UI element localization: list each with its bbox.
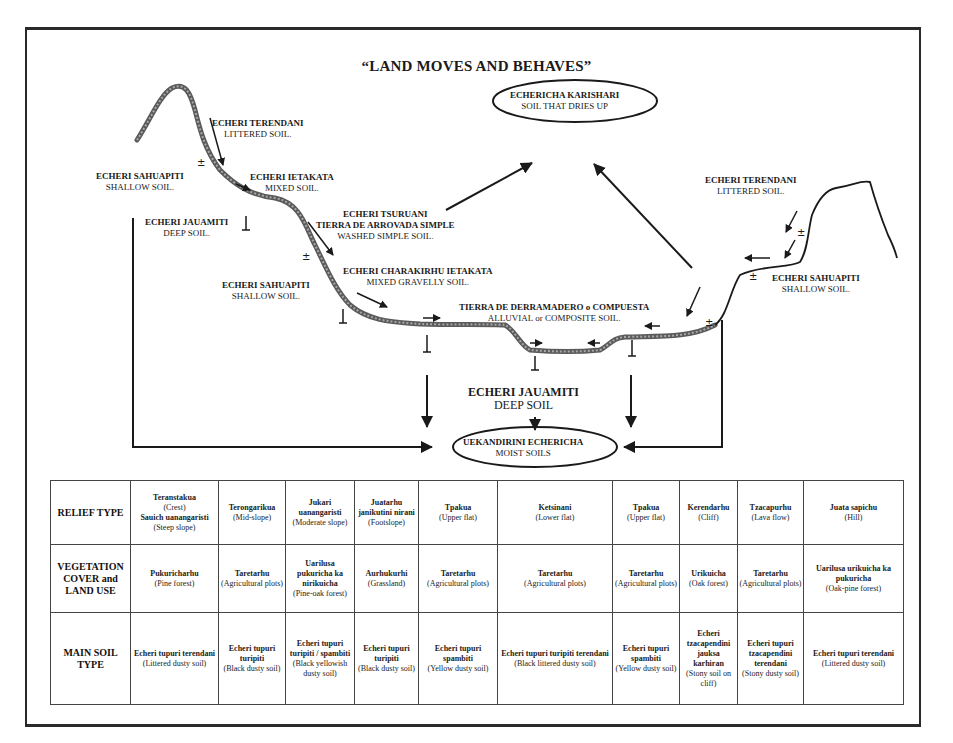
table-cell: Echeri tupuri spambiti(Yellow dusty soil… bbox=[613, 613, 680, 705]
table-cell: Echeri tupuri spambiti(Yellow dusty soil… bbox=[419, 613, 498, 705]
table-cell: Teranstakua (Crest) Sauich uanangaristi … bbox=[131, 481, 219, 545]
arrows-to-dries-up bbox=[446, 163, 692, 268]
table-row-soil-type: MAIN SOIL TYPE Echeri tupuri terendani(L… bbox=[51, 613, 904, 705]
label-left-sahuapiti-mid: ECHERI SAHUAPITI SHALLOW SOIL. bbox=[222, 280, 310, 302]
table-cell: Taretarhu(Agricultural plots) bbox=[738, 545, 804, 613]
table-cell: Urikuicha(Oak forest) bbox=[680, 545, 738, 613]
table-cell: Echeri tupuri tzacapendini terendani(Sto… bbox=[738, 613, 804, 705]
label-uekandirini: UEKANDIRINI ECHERICHA MOIST SOILS bbox=[463, 437, 583, 459]
label-right-sahuapiti: ECHERI SAHUAPITI SHALLOW SOIL. bbox=[772, 273, 860, 295]
table-cell: Juatarhu janikutini nirani(Footslope) bbox=[355, 481, 419, 545]
table-cell: Aurhukurhi(Grassland) bbox=[355, 545, 419, 613]
table-row-relief: RELIEF TYPE Teranstakua (Crest) Sauich u… bbox=[51, 481, 904, 545]
table-cell: Kerendarhu(Cliff) bbox=[680, 481, 738, 545]
label-charakirhu: ECHERI CHARAKIRHU IETAKATA MIXED GRAVELL… bbox=[343, 266, 493, 288]
table-cell: Uarilusa urikuicha ka pukuricha(Oak-pine… bbox=[804, 545, 904, 613]
label-tsuruani: ECHERI TSURUANI TIERRA DE ARROVADA SIMPL… bbox=[316, 209, 455, 242]
table-cell: Taretarhu(Agricultural plots) bbox=[613, 545, 680, 613]
table-cell: Echeri tupuri terendani(Littered dusty s… bbox=[804, 613, 904, 705]
table-cell: Echeri tzacapendini jauksa karhiran(Ston… bbox=[680, 613, 738, 705]
table-cell: Taretarhu(Agricultural plots) bbox=[498, 545, 613, 613]
table-cell: Echeri tupuri terendani(Littered dusty s… bbox=[131, 613, 219, 705]
label-right-terendani: ECHERI TERENDANI LITTERED SOIL. bbox=[705, 175, 797, 197]
table-cell: Terongarikua(Mid-slope) bbox=[219, 481, 286, 545]
table-cell: Jukari uanangaristi(Moderate slope) bbox=[286, 481, 355, 545]
table-cell: Uarilusa pukuricha ka nirikuicha(Pine-oa… bbox=[286, 545, 355, 613]
table-cell: Juata sapichu(Hill) bbox=[804, 481, 904, 545]
table-cell: Tpakua(Upper flat) bbox=[613, 481, 680, 545]
right-terrain-profile bbox=[715, 182, 897, 325]
table-cell: Taretarhu(Agricultural plots) bbox=[219, 545, 286, 613]
row-header-soil-type: MAIN SOIL TYPE bbox=[51, 613, 131, 705]
table-cell: Ketsinani(Lower flat) bbox=[498, 481, 613, 545]
table-cell: Echeri tupuri turipiti terendani(Black l… bbox=[498, 613, 613, 705]
table-cell: Taretarhu(Agricultural plots) bbox=[419, 545, 498, 613]
table-cell: Echeri tupuri turipiti(Black dusty soil) bbox=[219, 613, 286, 705]
svg-text:±: ± bbox=[302, 251, 310, 262]
svg-text:±: ± bbox=[705, 317, 713, 328]
table-cell: Tpakua(Upper flat) bbox=[419, 481, 498, 545]
table-row-vegetation: VEGETATION COVER and LAND USE Pukurichar… bbox=[51, 545, 904, 613]
svg-text:±: ± bbox=[749, 271, 757, 282]
label-left-ietakata: ECHERI IETAKATA MIXED SOIL. bbox=[250, 172, 334, 194]
table-cell: Tzacapurhu(Lava flow) bbox=[738, 481, 804, 545]
row-header-vegetation: VEGETATION COVER and LAND USE bbox=[51, 545, 131, 613]
label-left-jauamiti: ECHERI JAUAMITI DEEP SOIL. bbox=[145, 217, 228, 239]
label-left-sahuapiti-top: ECHERI SAHUAPITI SHALLOW SOIL. bbox=[96, 171, 184, 193]
label-karishari: ECHERICHA KARISHARI SOIL THAT DRIES UP bbox=[510, 90, 619, 112]
label-center-jauamiti: ECHERI JAUAMITI DEEP SOIL bbox=[468, 386, 579, 412]
svg-text:±: ± bbox=[797, 227, 805, 238]
label-left-terendani: ECHERI TERENDANI LITTERED SOIL. bbox=[212, 118, 304, 140]
table-cell: Echeri tupuri turipiti(Black dusty soil) bbox=[355, 613, 419, 705]
table-cell: Pukuricharhu(Pine forest) bbox=[131, 545, 219, 613]
row-header-relief: RELIEF TYPE bbox=[51, 481, 131, 545]
svg-text:±: ± bbox=[197, 157, 205, 168]
soil-classification-table: RELIEF TYPE Teranstakua (Crest) Sauich u… bbox=[50, 480, 904, 705]
label-derramadero: TIERRA DE DERRAMADERO o COMPUESTA ALLUVI… bbox=[459, 302, 649, 324]
table-cell: Echeri tupuri turipiti / spambiti(Black … bbox=[286, 613, 355, 705]
arrows-to-moist-soils bbox=[133, 218, 722, 447]
